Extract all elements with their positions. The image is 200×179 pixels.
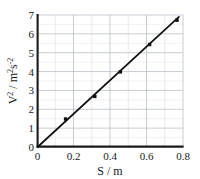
data-point — [64, 117, 67, 120]
x-tick-label: 0 — [35, 150, 41, 162]
y-tick-label: 7 — [29, 9, 35, 21]
y-label-s-exponent: -2 — [6, 58, 15, 65]
y-tick-label: 1 — [29, 122, 35, 134]
x-tick-label: 0.2 — [67, 150, 81, 162]
y-tick-label: 6 — [29, 28, 35, 40]
y-label-v: V — [6, 95, 20, 104]
y-tick-label: 5 — [29, 47, 35, 59]
data-point — [119, 70, 122, 73]
chart-figure: 0 1 2 3 4 5 6 7 0 0.2 0.4 0.6 0.8 S / m … — [0, 0, 200, 179]
chart-canvas: 0 1 2 3 4 5 6 7 0 0.2 0.4 0.6 0.8 S / m … — [0, 0, 200, 179]
y-axis-label: V2 / m2s-2 — [6, 58, 21, 105]
y-tick-label: 4 — [29, 66, 35, 78]
x-tick-label: 0.6 — [140, 150, 154, 162]
data-point — [148, 43, 151, 46]
x-axis-label: S / m — [97, 164, 123, 178]
data-point — [93, 95, 96, 98]
y-tick-label: 0 — [29, 141, 35, 153]
x-tick-label: 0.8 — [176, 150, 190, 162]
x-tick-label: 0.4 — [103, 150, 117, 162]
y-tick-label: 2 — [29, 103, 35, 115]
data-point — [175, 19, 178, 22]
y-tick-label: 3 — [29, 84, 35, 96]
y-label-slash-m: / m — [6, 72, 20, 91]
svg-text:V2 / m2s-2: V2 / m2s-2 — [6, 58, 21, 105]
